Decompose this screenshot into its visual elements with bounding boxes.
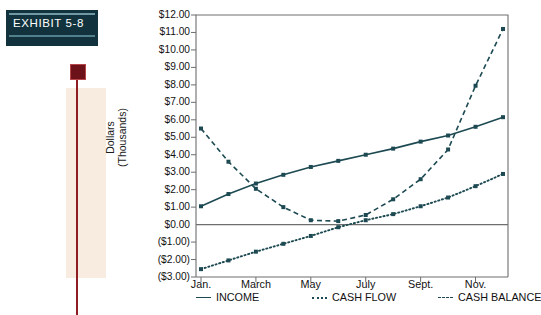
data-point-marker [474, 125, 478, 129]
data-point-marker [226, 192, 230, 196]
data-point-marker [226, 258, 230, 262]
data-point-marker [281, 242, 285, 246]
chart-legend: INCOMECASH FLOWCASH BALANCE [196, 291, 516, 309]
data-point-marker [309, 218, 313, 222]
legend-item: CASH FLOW [312, 291, 396, 303]
data-point-marker [446, 147, 450, 151]
data-point-marker [391, 212, 395, 216]
data-point-marker [501, 27, 505, 31]
legend-item-label: CASH BALANCE [458, 291, 541, 303]
data-point-marker [501, 115, 505, 119]
data-point-marker [364, 153, 368, 157]
plot-frame [196, 15, 508, 277]
data-point-marker [199, 267, 203, 271]
data-point-marker [309, 234, 313, 238]
data-point-marker [336, 159, 340, 163]
data-point-marker [226, 160, 230, 164]
legend-key-dashed-icon [438, 293, 453, 302]
data-point-marker [336, 219, 340, 223]
data-point-marker [364, 218, 368, 222]
data-point-marker [474, 84, 478, 88]
data-series-line [201, 117, 503, 206]
data-point-marker [446, 196, 450, 200]
data-point-marker [254, 250, 258, 254]
data-point-marker [281, 173, 285, 177]
data-point-marker [419, 177, 423, 181]
data-point-marker [501, 172, 505, 176]
data-point-marker [281, 205, 285, 209]
data-point-marker [199, 127, 203, 131]
data-point-marker [474, 184, 478, 188]
data-point-marker [419, 204, 423, 208]
data-point-marker [364, 213, 368, 217]
legend-item-label: CASH FLOW [332, 291, 396, 303]
data-point-marker [446, 134, 450, 138]
data-point-marker [199, 204, 203, 208]
data-point-marker [391, 147, 395, 151]
legend-item: CASH BALANCE [438, 291, 541, 303]
data-point-marker [309, 165, 313, 169]
legend-key-dotted-icon [312, 293, 327, 302]
data-point-marker [254, 187, 258, 191]
legend-item: INCOME [196, 291, 259, 303]
data-point-marker [336, 225, 340, 229]
data-point-marker [254, 182, 258, 186]
legend-key-solid-icon [196, 293, 211, 302]
data-point-marker [419, 140, 423, 144]
data-point-marker [391, 197, 395, 201]
data-series-line [201, 29, 503, 221]
legend-item-label: INCOME [216, 291, 259, 303]
data-series-line [201, 174, 503, 269]
